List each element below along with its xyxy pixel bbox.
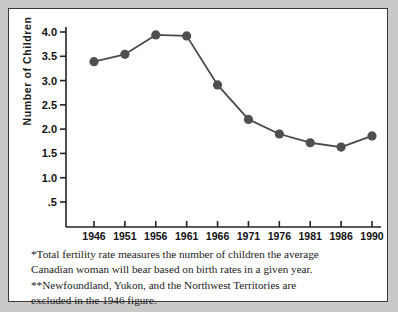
y-tick-label: 2.0: [31, 124, 57, 135]
y-tick-label: 2.5: [31, 99, 57, 110]
data-point-1981: [306, 138, 315, 147]
y-tick-label: .5: [31, 197, 57, 208]
y-axis-tick-marks: [60, 32, 66, 202]
data-point-1946: [89, 57, 98, 66]
data-point-1951: [120, 50, 129, 59]
data-point-1990: [367, 131, 376, 140]
caption-line-2: Canadian woman will bear based on birth …: [31, 262, 373, 277]
caption-line-3: **Newfoundland, Yukon, and the Northwest…: [31, 278, 373, 293]
data-point-1961: [182, 31, 191, 40]
y-tick-label: 1.0: [31, 172, 57, 183]
line-chart-canvas: [9, 9, 389, 241]
y-tick-label: 1.5: [31, 148, 57, 159]
data-point-1986: [337, 143, 346, 152]
y-tick-label: 4.0: [31, 27, 57, 38]
data-line: [94, 35, 372, 147]
data-point-1956: [151, 30, 160, 39]
y-axis-tick-labels: .51.01.52.02.53.03.54.0: [27, 9, 57, 241]
plot-area: Number of Children .51.01.52.02.53.03.54…: [9, 9, 389, 241]
data-point-1971: [244, 115, 253, 124]
caption-line-4: excluded in the 1946 figure.: [31, 293, 373, 308]
y-tick-label: 3.5: [31, 51, 57, 62]
caption-line-1: *Total fertility rate measures the numbe…: [31, 247, 373, 262]
x-axis-tick-marks: [94, 221, 372, 227]
figure-caption: *Total fertility rate measures the numbe…: [31, 247, 373, 309]
data-point-1976: [275, 129, 284, 138]
data-point-1966: [213, 80, 222, 89]
y-tick-label: 3.0: [31, 75, 57, 86]
figure-frame: Number of Children .51.01.52.02.53.03.54…: [8, 8, 388, 302]
x-tick-label: 1990: [350, 231, 394, 242]
